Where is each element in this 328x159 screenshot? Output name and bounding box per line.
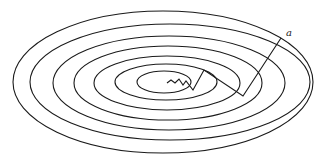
contour-ellipse-2	[115, 64, 217, 100]
contour-ellipse-7	[13, 11, 313, 153]
contour-ellipse-4	[74, 46, 262, 120]
start-point-label: a	[286, 27, 292, 38]
contour-diagram: a	[0, 0, 328, 159]
contour-lines	[13, 11, 313, 153]
contour-ellipse-1	[137, 71, 191, 93]
contour-plot-canvas: a	[0, 0, 328, 159]
contour-ellipse-6	[30, 24, 310, 140]
contour-ellipse-5	[53, 36, 285, 130]
